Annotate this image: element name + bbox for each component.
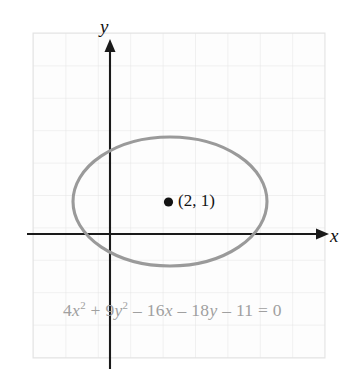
eq-minus-2: –: [173, 300, 191, 320]
eq-coef-y: 18: [191, 300, 209, 320]
eq-var-y: y: [114, 300, 122, 320]
y-axis-label: y: [100, 17, 108, 36]
point-coordinate-label: (2, 1): [178, 192, 215, 209]
eq-minus-1: –: [128, 300, 146, 320]
equation-annotation: 4x2 + 9y2 – 16x – 18y – 11 = 0: [63, 302, 282, 320]
ellipse-graph-figure: y x (2, 1) 4x2 + 9y2 – 16x – 18y – 11 = …: [0, 0, 351, 384]
center-point-marker: [164, 197, 173, 206]
eq-minus-3: –: [217, 300, 235, 320]
x-axis-label: x: [330, 226, 338, 245]
eq-equals: =: [253, 300, 273, 320]
graph-canvas: [0, 0, 351, 384]
eq-constant: 11: [236, 300, 253, 320]
eq-rhs: 0: [273, 300, 282, 320]
eq-coef-x: 16: [147, 300, 165, 320]
eq-var-x-linear: x: [165, 300, 173, 320]
eq-var-x: x: [72, 300, 80, 320]
eq-plus: +: [86, 300, 106, 320]
eq-coef-x2: 4: [63, 300, 72, 320]
